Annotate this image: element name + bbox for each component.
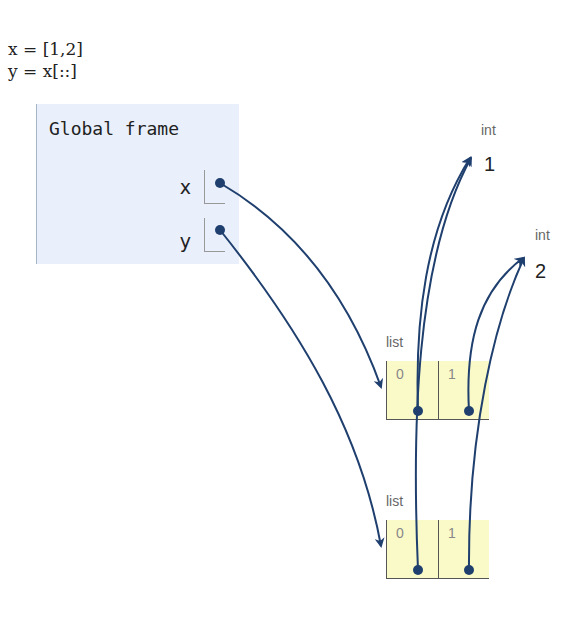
list-1-divider (438, 361, 439, 419)
code-line-1: x = [1,2] (8, 38, 83, 60)
list-1-index-0: 0 (396, 366, 404, 382)
code-listing: x = [1,2] y = x[::] (8, 38, 83, 82)
int-2-value: 2 (535, 260, 546, 283)
list-2-divider (438, 520, 439, 578)
pointer-arrows (0, 0, 588, 635)
code-line-2: y = x[::] (8, 60, 83, 82)
int-1-type: int (481, 122, 496, 138)
frame-title: Global frame (49, 118, 179, 139)
list-2-index-0: 0 (396, 525, 404, 541)
int-1-value: 1 (484, 153, 495, 176)
variable-x-cell (204, 170, 225, 204)
arrow-x-to-list-1 (220, 183, 381, 387)
variable-y-cell (204, 218, 225, 252)
list-2-index-1: 1 (448, 525, 456, 541)
list-1-type: list (386, 334, 403, 350)
list-1-box: 0 1 (386, 361, 489, 420)
list-1-index-1: 1 (448, 366, 456, 382)
int-2-type: int (535, 227, 550, 243)
global-frame: Global frame x y (36, 104, 239, 264)
list-2-box: 0 1 (386, 520, 489, 579)
arrow-y-to-list-2 (220, 230, 381, 546)
list-2-type: list (386, 493, 403, 509)
variable-y-name: y (180, 230, 191, 252)
variable-x-name: x (180, 176, 191, 198)
